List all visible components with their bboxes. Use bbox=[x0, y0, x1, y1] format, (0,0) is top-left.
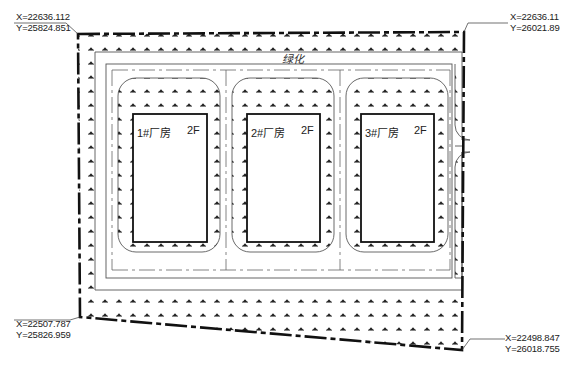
coord-bottom-right-x: X=22498.847 bbox=[505, 332, 560, 343]
building-3-floors: 2F bbox=[414, 124, 427, 136]
building-3-name: 3#厂房 bbox=[365, 124, 399, 140]
coord-bottom-right: X=22498.847 Y=26018.755 bbox=[505, 332, 560, 354]
coord-top-left-x: X=22636.112 bbox=[16, 11, 71, 22]
coord-top-right-x: X=22636.11 bbox=[510, 11, 560, 22]
coord-top-right-y: Y=26021.89 bbox=[510, 22, 560, 33]
coord-bottom-right-y: Y=26018.755 bbox=[505, 343, 560, 354]
coord-bottom-left: X=22507.787 Y=25826.959 bbox=[16, 318, 71, 340]
coord-top-right: X=22636.11 Y=26021.89 bbox=[510, 11, 560, 33]
building-2-floors: 2F bbox=[301, 124, 314, 136]
coord-bottom-left-y: Y=25826.959 bbox=[16, 329, 71, 340]
building-1-name: 1#厂房 bbox=[137, 124, 171, 140]
building-2-name: 2#厂房 bbox=[251, 124, 285, 140]
coord-top-left: X=22636.112 Y=25824.851 bbox=[16, 11, 71, 33]
building-1-floors: 2F bbox=[187, 124, 200, 136]
coord-bottom-left-x: X=22507.787 bbox=[16, 318, 71, 329]
entrance-islands bbox=[462, 64, 484, 142]
greenery-label: 绿化 bbox=[282, 50, 304, 66]
coord-top-left-y: Y=25824.851 bbox=[16, 22, 71, 33]
